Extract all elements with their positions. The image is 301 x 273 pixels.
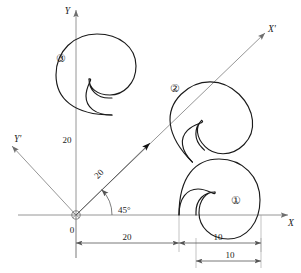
shape-marker-2: ② [170, 82, 180, 94]
cam-profile-1 [179, 159, 260, 239]
y-axis-label: Y [65, 6, 72, 16]
y-prime-axis [12, 146, 76, 215]
dim-label-x-20: 20 [123, 232, 133, 242]
angle-arc [102, 190, 113, 216]
origin-label: 0 [70, 225, 75, 235]
dim-label-x-10-low: 10 [226, 250, 236, 260]
diagram-canvas: Y X X' Y' 0 45° ① ② ③ 20 10 10 [0, 0, 301, 273]
dim-label-diagonal: 20 [92, 167, 106, 181]
dim-label-x-10: 10 [214, 232, 224, 242]
dim-line-diagonal [76, 143, 150, 215]
axis-group [12, 10, 288, 258]
y-prime-axis-label: Y' [14, 134, 22, 144]
x-axis-label: X [287, 218, 295, 228]
angle-label: 45° [118, 205, 131, 215]
engineering-diagram: Y X X' Y' 0 45° ① ② ③ 20 10 10 [0, 0, 301, 273]
dim-label-y-20: 20 [63, 135, 73, 145]
shape-marker-1: ① [231, 194, 241, 206]
shape-marker-3: ③ [56, 52, 66, 64]
x-prime-axis-label: X' [267, 24, 277, 34]
cam-profile-3 [56, 34, 136, 115]
